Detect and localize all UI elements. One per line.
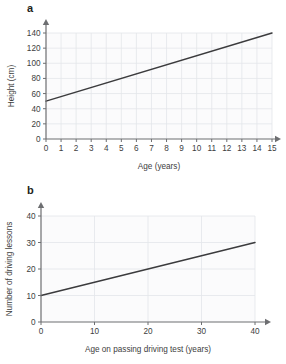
- chart-b-canvas: 010203040010203040Age on passing driving…: [0, 182, 286, 364]
- y-tick-label: 60: [31, 90, 41, 99]
- plot-background: [46, 33, 272, 139]
- x-axis-title: Age (years): [138, 162, 181, 171]
- x-tick-label: 40: [250, 327, 260, 336]
- x-tick-label: 15: [267, 144, 277, 153]
- x-tick-label: 2: [74, 144, 79, 153]
- x-tick-label: 3: [89, 144, 94, 153]
- x-tick-label: 30: [197, 327, 207, 336]
- x-tick-label: 6: [134, 144, 139, 153]
- x-tick-label: 1: [59, 144, 64, 153]
- x-axis-ticks: 0123456789101112131415: [44, 139, 277, 153]
- y-tick-label: 20: [31, 120, 41, 129]
- x-tick-label: 10: [90, 327, 100, 336]
- x-tick-label: 0: [44, 144, 49, 153]
- x-tick-label: 5: [119, 144, 124, 153]
- y-axis-title: Height (cm): [7, 65, 16, 108]
- chart-b-svg: 010203040010203040Age on passing driving…: [0, 182, 286, 364]
- y-axis-ticks: 010203040: [26, 212, 41, 327]
- x-tick-label: 9: [179, 144, 184, 153]
- x-tick-label: 7: [149, 144, 154, 153]
- x-tick-label: 8: [164, 144, 169, 153]
- y-axis-ticks: 020406080100120140: [27, 29, 46, 144]
- x-tick-label: 11: [207, 144, 216, 153]
- y-tick-label: 20: [26, 265, 36, 274]
- x-tick-label: 13: [237, 144, 247, 153]
- x-axis-arrow-icon: [265, 319, 271, 325]
- x-axis-title: Age on passing driving test (years): [85, 345, 211, 354]
- y-axis-arrow-icon: [38, 202, 44, 208]
- y-tick-label: 30: [26, 239, 36, 248]
- y-tick-label: 10: [26, 292, 36, 301]
- y-tick-label: 40: [31, 105, 41, 114]
- y-tick-label: 100: [27, 59, 41, 68]
- y-tick-label: 80: [31, 74, 41, 83]
- y-tick-label: 0: [36, 135, 41, 144]
- y-tick-label: 0: [31, 318, 36, 327]
- y-tick-label: 120: [27, 44, 41, 53]
- y-tick-label: 40: [26, 212, 36, 221]
- x-tick-label: 20: [143, 327, 153, 336]
- x-axis-arrow-icon: [275, 136, 281, 142]
- y-tick-label: 140: [27, 29, 41, 38]
- x-axis-ticks: 010203040: [39, 322, 260, 336]
- x-tick-label: 4: [104, 144, 109, 153]
- x-tick-label: 0: [39, 327, 44, 336]
- chart-panel-a: a 01234567891011121314150204060801001201…: [0, 0, 286, 182]
- x-tick-label: 10: [192, 144, 202, 153]
- x-tick-label: 14: [252, 144, 262, 153]
- chart-panel-b: b 010203040010203040Age on passing drivi…: [0, 182, 286, 364]
- chart-a-svg: 0123456789101112131415020406080100120140…: [0, 0, 286, 182]
- y-axis-title: Number of driving lessons: [5, 222, 14, 317]
- x-tick-label: 12: [222, 144, 232, 153]
- chart-a-canvas: 0123456789101112131415020406080100120140…: [0, 0, 286, 182]
- y-axis-arrow-icon: [43, 19, 49, 25]
